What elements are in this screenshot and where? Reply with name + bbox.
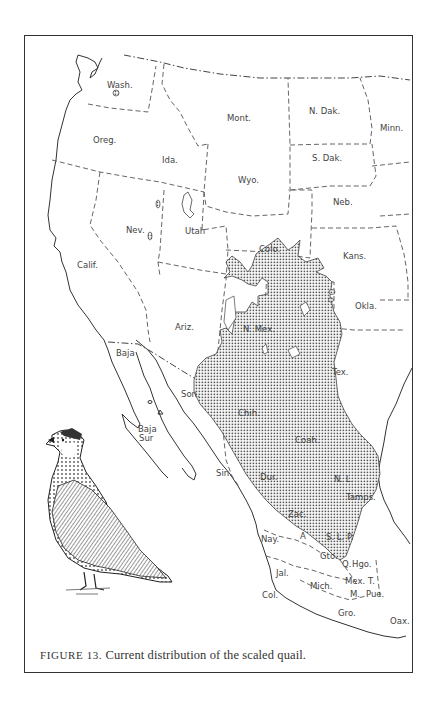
us-canada-border [124,55,410,80]
label-chih: Chih. [238,408,260,418]
label-gto: Gto. [320,551,338,561]
label-tamps: Tamps. [345,492,376,502]
label-ariz: Ariz. [175,322,194,332]
label-mont: Mont. [227,113,251,123]
label-pue: Pue. [366,589,384,599]
label-jal: Jal. [275,568,289,578]
label-tlax: T. [367,576,375,586]
label-okla: Okla. [355,301,377,311]
label-dur: Dur. [260,472,277,482]
label-baja: Baja [116,348,135,358]
label-minn: Minn. [380,123,403,133]
label-coah: Coah. [295,435,319,445]
label-mex: Mex. [345,576,365,586]
label-slp: S. L. P. [326,532,353,542]
label-nay: Nay. [261,534,279,544]
label-baja-sur-2: Sur [139,433,154,443]
label-wash: Wash. [107,80,133,90]
label-sin: Sin. [216,468,232,478]
label-tex: Tex. [331,367,349,377]
label-wyo: Wyo. [238,175,259,185]
quail-range-area [194,238,380,560]
label-nmex: N. Mex. [243,324,275,334]
label-kans: Kans. [343,251,366,261]
label-ags: A [300,531,306,541]
label-nev: Nev. [126,225,145,235]
label-oreg: Oreg. [93,135,116,145]
label-mich: Mich. [310,581,332,591]
label-hgo: Hgo. [352,559,372,569]
label-sdak: S. Dak. [312,153,342,163]
label-neb: Neb. [333,197,353,207]
label-colo: Colo. [259,244,280,254]
figure-caption-text: Current distribution of the scaled quail… [102,648,306,662]
label-col: Col. [262,590,278,600]
label-utah: Utah [185,226,205,236]
figure-caption: FIGURE 13. Current distribution of the s… [40,648,306,663]
label-gro: Gro. [338,608,356,618]
label-zac: Zac. [288,509,306,519]
label-ida: Ida. [162,155,178,165]
label-ndak: N. Dak. [309,106,340,116]
label-q: Q. [342,559,351,569]
scaled-quail-illustration [46,428,172,594]
figure-number: FIGURE 13. [40,649,102,661]
distribution-map: Wash. Oreg. Calif. Ida. Nev. Mont. Wyo. … [0,0,435,708]
label-son: Son. [181,389,200,399]
label-calif: Calif. [77,260,98,270]
label-oax: Oax. [390,616,410,626]
label-mor: M. [350,589,360,599]
label-nl: N. L. [334,474,353,484]
